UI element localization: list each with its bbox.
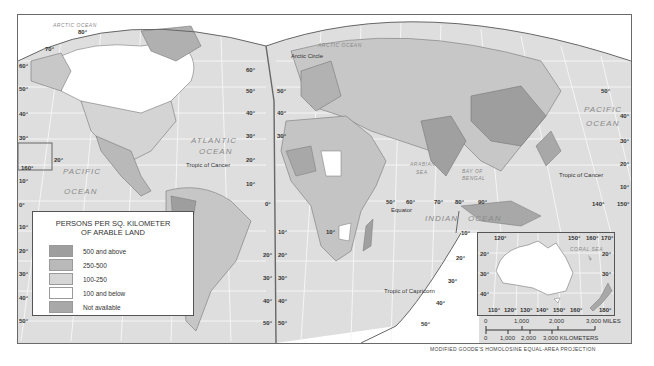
legend-label: 100-250 <box>83 276 107 283</box>
lat-label: 80° <box>78 29 87 35</box>
km-tick: 2,000 <box>521 335 536 341</box>
inset-lat-label: 20° <box>602 251 611 257</box>
legend-item: 500 and above <box>49 245 126 257</box>
miles-tick: 3,000 MILES <box>586 318 621 324</box>
coral-sea-label: CORAL SEA <box>570 247 603 252</box>
lat-label: 20° <box>278 252 287 258</box>
legend: PERSONS PER SQ. KILOMETER OF ARABLE LAND… <box>32 211 194 316</box>
inset-lon-label: 180° <box>599 307 611 313</box>
lat-label: 0° <box>19 202 25 208</box>
lat-label: 30° <box>620 138 629 144</box>
km-tick: 3,000 KILOMETERS <box>543 335 598 341</box>
lon-label: 50° <box>386 199 395 205</box>
lat-label: 10° <box>461 230 470 236</box>
lat-label: 30° <box>19 271 28 277</box>
lon-label: 150° <box>617 201 629 207</box>
indian-ocean-label-1: INDIAN <box>425 215 458 223</box>
lat-label: 10° <box>19 224 28 230</box>
inset-lon-label: 160° <box>570 307 582 313</box>
legend-swatch <box>49 273 73 285</box>
lat-label: 50° <box>601 88 610 94</box>
inset-lon-label: 110° <box>488 307 500 313</box>
miles-tick: 0 <box>484 318 487 324</box>
lon-label: 70° <box>434 199 443 205</box>
inset-lon-label: 120° <box>504 307 516 313</box>
arctic-ocean-label-left: ARCTIC OCEAN <box>53 23 97 28</box>
atlantic-ocean-label-2: OCEAN <box>199 148 232 156</box>
lat-label: 10° <box>278 229 287 235</box>
lat-label: 40° <box>19 111 28 117</box>
inset-lon-label: 170° <box>601 235 613 241</box>
lat-label: 30° <box>278 275 287 281</box>
legend-title: PERSONS PER SQ. KILOMETER OF ARABLE LAND <box>33 219 193 237</box>
pacific-ocean-label-left-2: OCEAN <box>64 188 97 196</box>
bay-of-bengal-label-2: BENGAL <box>462 176 485 181</box>
lat-label: 10° <box>326 229 335 235</box>
lat-label: 60° <box>19 63 28 69</box>
inset-lat-label: 30° <box>602 271 611 277</box>
inset-lon-label: 130° <box>520 307 532 313</box>
inset-lon-label: 140° <box>536 307 548 313</box>
legend-item: 250-500 <box>49 259 107 271</box>
pacific-ocean-label-right-2: OCEAN <box>586 120 619 128</box>
lat-label: 30° <box>263 275 272 281</box>
legend-label: 100 and below <box>83 290 125 297</box>
atlantic-ocean-label-1: ATLANTIC <box>191 137 237 145</box>
lat-label: 20° <box>54 157 63 163</box>
lat-label: 30° <box>246 133 255 139</box>
inset-lat-label: 40° <box>480 291 489 297</box>
lon-label: 90° <box>478 199 487 205</box>
tropic-of-cancer-label-left: Tropic of Cancer <box>186 162 230 168</box>
legend-swatch <box>49 287 73 299</box>
lat-label: 50° <box>421 321 430 327</box>
equator-label: Equator <box>391 207 412 213</box>
lat-label: 50° <box>19 318 28 324</box>
lat-label: 10° <box>19 178 28 184</box>
legend-label: 250-500 <box>83 262 107 269</box>
lat-label: 40° <box>278 298 287 304</box>
lat-label: 40° <box>246 110 255 116</box>
legend-swatch <box>49 301 73 313</box>
legend-title-line1: PERSONS PER SQ. KILOMETER <box>33 219 193 228</box>
tropic-of-capricorn-label: Tropic of Capricorn <box>384 288 435 294</box>
inset-lon-label: 150° <box>568 235 580 241</box>
lat-label: 20° <box>620 161 629 167</box>
lon-label: 60° <box>406 199 415 205</box>
lat-label: 40° <box>436 300 445 306</box>
lat-label: 50° <box>19 86 28 92</box>
indian-ocean-label-2: OCEAN <box>468 215 501 223</box>
scale-bar: 0 1,000 2,000 3,000 MILES 0 1,000 2,000 … <box>482 318 642 348</box>
lon-label: 80° <box>455 199 464 205</box>
scale-ruler <box>482 325 612 335</box>
legend-item: Not available <box>49 301 121 313</box>
lat-label: 40° <box>620 113 629 119</box>
lat-label: 20° <box>19 248 28 254</box>
pacific-ocean-label-left-1: PACIFIC <box>63 168 101 176</box>
inset-lon-label: 150° <box>553 307 565 313</box>
lat-label: 40° <box>263 298 272 304</box>
km-tick: 0 <box>484 335 487 341</box>
lat-label: 10° <box>246 181 255 187</box>
lat-label: 30° <box>448 278 457 284</box>
lat-label: 30° <box>19 135 28 141</box>
inset-lon-label: 160° <box>586 235 598 241</box>
arctic-ocean-label-right: ARCTIC OCEAN <box>318 43 362 48</box>
lat-label: 50° <box>277 88 286 94</box>
miles-tick: 1,000 <box>514 318 529 324</box>
legend-item: 100 and below <box>49 287 125 299</box>
lon-label: 160° <box>21 165 33 171</box>
lat-label: 30° <box>277 133 286 139</box>
legend-label: Not available <box>83 304 121 311</box>
legend-swatch <box>49 245 73 257</box>
inset-lat-label: 30° <box>480 271 489 277</box>
pacific-ocean-label-right-1: PACIFIC <box>584 106 622 114</box>
lat-label: 20° <box>246 157 255 163</box>
legend-label: 500 and above <box>83 248 126 255</box>
lat-label: 50° <box>263 320 272 326</box>
lat-label: 40° <box>19 295 28 301</box>
legend-item: 100-250 <box>49 273 107 285</box>
lat-label: 0° <box>265 201 271 207</box>
tropic-of-cancer-label-right: Tropic of Cancer <box>559 172 603 178</box>
bay-of-bengal-label-1: BAY OF <box>462 169 483 174</box>
projection-label: MODIFIED GOODE'S HOMOLOSINE EQUAL-AREA P… <box>430 346 596 352</box>
